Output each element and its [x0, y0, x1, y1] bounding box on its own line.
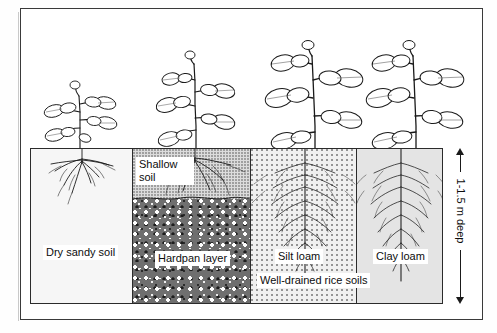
depth-dimension: 1-1.5 m deep: [452, 148, 470, 304]
soil-panel-shallow-hardpan: Shallow soil Hardpan layer: [133, 149, 250, 303]
plant-silt-loam: [255, 40, 373, 150]
soil-panel-dry-sandy: Dry sandy soil: [31, 149, 132, 303]
plant-clay-loam: [358, 40, 476, 150]
label-well-drained-rice-soils: Well-drained rice soils: [257, 273, 370, 288]
label-hardpan-layer: Hardpan layer: [155, 251, 230, 266]
label-dry-sandy-soil: Dry sandy soil: [43, 245, 118, 260]
plant-dry-sandy: [28, 78, 132, 150]
plant-shallow-hardpan: [140, 52, 250, 150]
soil-profile-block: Dry sandy soil: [30, 148, 443, 304]
depth-label: 1-1.5 m deep: [454, 172, 468, 250]
label-clay-loam: Clay loam: [373, 249, 428, 264]
figure-canvas: Dry sandy soil: [0, 0, 497, 333]
arrow-head-bottom-icon: [456, 297, 464, 304]
label-silt-loam: Silt loam: [275, 249, 323, 264]
label-shallow-soil: Shallow soil: [136, 157, 194, 185]
